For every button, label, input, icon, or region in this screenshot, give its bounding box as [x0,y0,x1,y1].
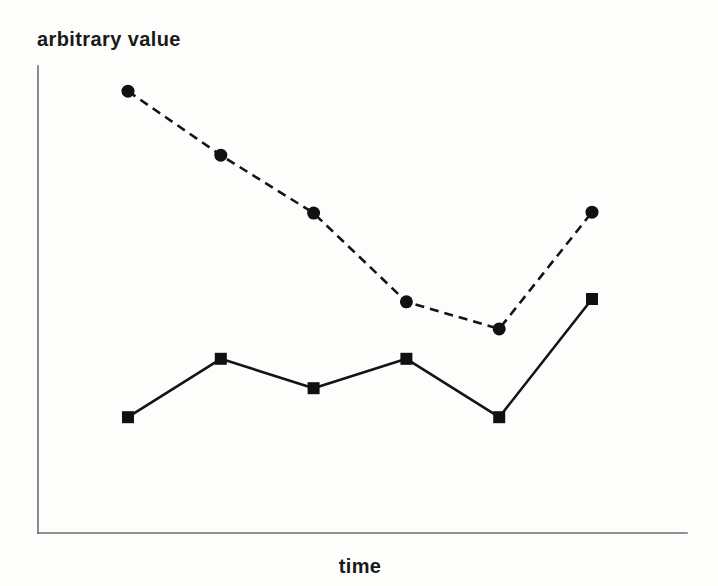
solid-square-series-marker-5 [493,411,505,423]
solid-square-series-marker-1 [122,411,134,423]
series-layer [122,85,599,424]
solid-square-series-marker-3 [308,382,320,394]
dashed-circle-series-marker-2 [214,149,227,162]
dashed-circle-series-marker-1 [122,85,135,98]
dashed-circle-series-marker-3 [307,207,320,220]
y-axis-label: arbitrary value [37,28,181,50]
solid-square-series-line [128,299,592,417]
solid-square-series-marker-6 [586,293,598,305]
series-dashed-circle-series [122,85,599,336]
x-axis-label: time [339,555,382,577]
line-chart: arbitrary value time [0,0,718,586]
dashed-circle-series-marker-4 [400,295,413,308]
figure-page: arbitrary value time [0,0,718,586]
series-solid-square-series [122,293,598,423]
solid-square-series-marker-4 [400,353,412,365]
solid-square-series-marker-2 [215,353,227,365]
dashed-circle-series-line [128,91,592,329]
dashed-circle-series-marker-5 [493,322,506,335]
dashed-circle-series-marker-6 [586,206,599,219]
